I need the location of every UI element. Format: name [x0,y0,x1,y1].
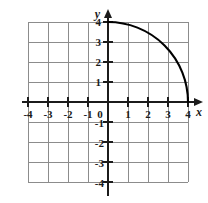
x-tick-label--3: -3 [43,108,53,120]
x-tick-label-2: 2 [145,108,151,120]
y-tick-label--3: -3 [95,157,105,169]
y-axis-arrow-icon [104,9,112,18]
x-axis [22,98,203,106]
y-tick-label--1: -1 [95,117,104,129]
x-tick-label--4: -4 [23,108,33,120]
y-tick-label-3: 3 [96,36,102,48]
y-tick-label--4: -4 [95,177,105,189]
y-tick-label-2: 2 [96,56,102,68]
coordinate-plane-svg: -4 -3 -2 -1 1 2 3 4 0 4 3 2 1 -1 -2 -3 -… [0,0,208,203]
x-tick-label-4: 4 [185,108,191,120]
y-tick-label--2: -2 [95,137,105,149]
coordinate-plane-figure: -4 -3 -2 -1 1 2 3 4 0 4 3 2 1 -1 -2 -3 -… [0,0,208,203]
x-tick-label--1: -1 [83,108,92,120]
y-tick-label-1: 1 [96,76,102,88]
x-axis-name-label: x [195,105,202,119]
x-tick-label--2: -2 [63,108,73,120]
x-tick-label-3: 3 [165,108,171,120]
y-axis-name-label: y [93,7,101,21]
x-tick-label-1: 1 [125,108,131,120]
